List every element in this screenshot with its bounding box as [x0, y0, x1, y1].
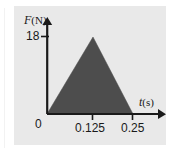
x-axis-arrowhead	[158, 109, 166, 119]
y-axis-unit: (N)	[31, 14, 46, 26]
origin-label: 0	[35, 118, 42, 130]
y-tick-label-18: 18	[26, 30, 39, 42]
x-tick-label-0125: 0.125	[75, 122, 105, 134]
force-triangle-area	[47, 37, 133, 114]
x-axis-label: t(s)	[139, 96, 154, 108]
x-axis-unit: (s)	[142, 96, 154, 108]
figure-container: F(N) 18 0 0.125 0.25 t(s)	[0, 0, 169, 155]
x-tick-label-025: 0.25	[121, 122, 144, 134]
y-axis-label: F(N)	[24, 14, 47, 26]
